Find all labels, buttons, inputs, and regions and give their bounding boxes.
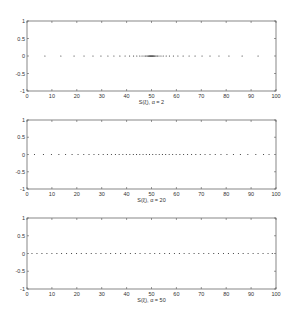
subplot-1-svg: 0102030405060708090100-1-0.500.51S(ξ), α…	[0, 0, 297, 107]
data-point	[163, 55, 164, 56]
data-point	[46, 253, 47, 254]
data-point	[146, 154, 147, 155]
data-point	[208, 253, 209, 254]
data-point	[71, 253, 72, 254]
x-tick-label: 90	[248, 291, 254, 297]
data-point	[100, 55, 101, 56]
data-point	[174, 253, 175, 254]
data-point	[169, 154, 170, 155]
y-tick-label: 0.5	[17, 233, 25, 239]
data-point	[247, 154, 248, 155]
data-point	[36, 253, 37, 254]
subplot-1: 0102030405060708090100-1-0.500.51S(ξ), α…	[0, 0, 297, 107]
data-point	[44, 55, 45, 56]
data-point	[179, 154, 180, 155]
data-point	[110, 253, 111, 254]
data-point	[141, 55, 142, 56]
data-point	[226, 154, 227, 155]
data-point	[126, 154, 127, 155]
data-point	[135, 253, 136, 254]
y-tick-label: 1	[22, 215, 25, 221]
data-point	[136, 154, 137, 155]
y-tick-label: -1	[20, 88, 25, 94]
data-point	[142, 154, 143, 155]
data-point	[122, 154, 123, 155]
data-point	[209, 55, 210, 56]
data-point	[169, 55, 170, 56]
data-point	[242, 55, 243, 56]
axes-frame	[27, 120, 276, 189]
data-point	[228, 253, 229, 254]
data-point	[83, 154, 84, 155]
data-point	[218, 55, 219, 56]
data-point	[218, 253, 219, 254]
data-point	[34, 154, 35, 155]
data-point	[111, 154, 112, 155]
data-point	[155, 55, 156, 56]
data-point	[139, 253, 140, 254]
data-point	[258, 55, 259, 56]
data-point	[223, 253, 224, 254]
data-point	[253, 253, 254, 254]
data-point	[133, 55, 134, 56]
subplot-3-svg: 0102030405060708090100-1-0.500.51S(ξ), α…	[0, 197, 297, 307]
data-point	[228, 55, 229, 56]
data-point	[213, 253, 214, 254]
x-tick-label: 60	[173, 291, 179, 297]
data-point	[100, 253, 101, 254]
y-tick-label: 1	[22, 117, 25, 123]
x-axis-label: S(ξ), α = 50	[137, 297, 165, 304]
data-point	[139, 154, 140, 155]
data-point	[103, 154, 104, 155]
data-point	[255, 154, 256, 155]
data-point	[173, 55, 174, 56]
data-point	[183, 55, 184, 56]
data-point	[220, 154, 221, 155]
data-point	[165, 154, 166, 155]
data-point	[58, 154, 59, 155]
data-point	[92, 55, 93, 56]
data-point	[191, 154, 192, 155]
data-point	[56, 253, 57, 254]
data-point	[107, 55, 108, 56]
data-point	[91, 253, 92, 254]
data-point	[203, 253, 204, 254]
data-point	[152, 154, 153, 155]
data-point	[179, 253, 180, 254]
data-point	[98, 154, 99, 155]
data-point	[169, 253, 170, 254]
data-point	[156, 55, 157, 56]
data-point	[72, 154, 73, 155]
data-point	[258, 253, 259, 254]
data-point	[189, 55, 190, 56]
data-point	[51, 154, 52, 155]
y-tick-label: 0	[22, 53, 25, 59]
data-point	[166, 55, 167, 56]
data-point	[129, 55, 130, 56]
data-point	[164, 253, 165, 254]
data-point	[158, 55, 159, 56]
data-point	[201, 55, 202, 56]
x-tick-label: 40	[124, 291, 130, 297]
data-point	[209, 154, 210, 155]
data-point	[184, 253, 185, 254]
data-point	[233, 154, 234, 155]
y-tick-label: 0.5	[17, 134, 25, 140]
data-point	[74, 55, 75, 56]
data-point	[115, 253, 116, 254]
data-point	[263, 253, 264, 254]
data-point	[172, 154, 173, 155]
data-point	[51, 253, 52, 254]
data-point	[162, 154, 163, 155]
data-point	[119, 154, 120, 155]
subplot-2-svg: 0102030405060708090100-1-0.500.51S(ξ), α…	[0, 99, 297, 206]
data-point	[113, 55, 114, 56]
data-point	[248, 253, 249, 254]
data-point	[60, 55, 61, 56]
data-point	[83, 55, 84, 56]
data-point	[144, 253, 145, 254]
y-tick-label: -1	[20, 286, 25, 292]
data-point	[267, 253, 268, 254]
data-point	[159, 154, 160, 155]
data-point	[149, 154, 150, 155]
